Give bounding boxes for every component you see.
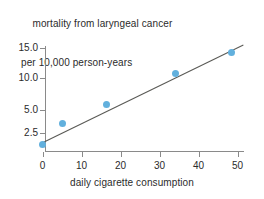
- x-tick-label: 0: [28, 160, 58, 171]
- chart-title-line-1: mortality from laryngeal cancer: [33, 18, 173, 29]
- x-tick-mark: [160, 152, 161, 157]
- x-axis-line: [45, 151, 244, 152]
- y-tick-label-text: 15.0: [12, 43, 38, 53]
- chart-container: mortality from laryngeal cancer per 10,0…: [0, 0, 264, 199]
- data-point: [228, 49, 235, 56]
- y-tick-mark: [40, 48, 45, 49]
- y-tick-label: 2.5: [10, 128, 38, 138]
- data-point: [172, 70, 179, 77]
- x-tick-label: 40: [184, 160, 214, 171]
- y-tick-mark: [40, 110, 45, 111]
- x-tick-mark: [82, 152, 83, 157]
- x-axis-title: daily cigarette consumption: [0, 177, 264, 188]
- y-tick-label: 10.0: [10, 73, 38, 83]
- x-tick-mark: [121, 152, 122, 157]
- x-tick-label: 20: [106, 160, 136, 171]
- x-tick-label: 50: [223, 160, 253, 171]
- data-point: [103, 101, 110, 108]
- y-tick-label-text: 10.0: [12, 73, 38, 83]
- y-tick-mark: [40, 78, 45, 79]
- y-tick-label: 15.0: [10, 43, 38, 53]
- x-tick-label: 10: [67, 160, 97, 171]
- data-point: [39, 141, 46, 148]
- x-tick-label: 30: [145, 160, 175, 171]
- chart-title: mortality from laryngeal cancer per 10,0…: [21, 4, 231, 95]
- x-tick-mark: [238, 152, 239, 157]
- x-tick-mark: [43, 152, 44, 157]
- y-axis-line: [45, 46, 46, 152]
- x-tick-mark: [199, 152, 200, 157]
- y-tick-label: 5.0: [10, 105, 38, 115]
- y-tick-mark: [40, 133, 45, 134]
- chart-title-line-2: per 10,000 person-years: [21, 56, 231, 69]
- y-tick-label-text: 5.0: [12, 105, 38, 115]
- data-point: [59, 120, 66, 127]
- y-tick-label-text: 2.5: [12, 128, 38, 138]
